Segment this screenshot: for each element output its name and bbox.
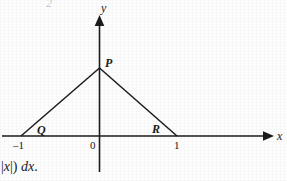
y-axis-label: y <box>101 2 106 14</box>
y-axis-arrowhead <box>95 15 105 26</box>
point-label-p: P <box>105 57 112 69</box>
caption-abs-close-paren: |) <box>10 159 21 174</box>
caption-period: . <box>34 159 38 174</box>
point-label-q: Q <box>37 124 46 136</box>
figure-page: 2 y x P Q R –1 0 1 |x|) dx. <box>0 0 287 181</box>
x-axis-label: x <box>277 130 282 142</box>
x-tick-label-one: 1 <box>174 140 180 151</box>
x-tick-label-minus-one: –1 <box>13 140 24 151</box>
x-axis-arrowhead <box>263 131 274 141</box>
caption-text-fragment: |x|) dx. <box>1 160 38 174</box>
y-axis <box>95 15 105 172</box>
curve-right-segment <box>100 68 178 136</box>
point-label-r: R <box>152 123 160 135</box>
curve-left-segment <box>21 68 100 136</box>
x-tick-label-zero: 0 <box>90 140 96 151</box>
graph-figure <box>0 0 287 181</box>
caption-differential-dx: dx <box>21 159 34 174</box>
